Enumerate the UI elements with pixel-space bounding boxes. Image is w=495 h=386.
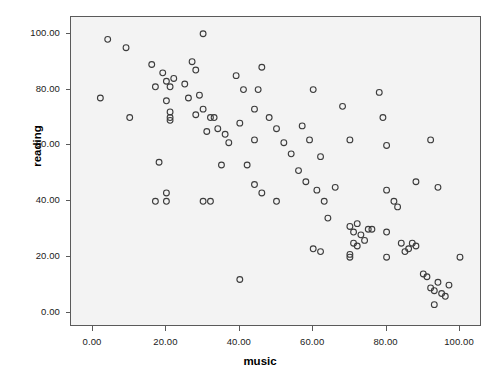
data-point (384, 254, 390, 260)
x-tick-label: 60.00 (282, 337, 342, 347)
data-point (347, 224, 353, 230)
data-point (164, 198, 170, 204)
data-point (299, 123, 305, 129)
y-tick-label: 100.00 (4, 28, 60, 38)
data-point (153, 198, 159, 204)
y-tick-label: 0.00 (4, 307, 60, 317)
data-point (431, 302, 437, 308)
data-point (204, 129, 210, 135)
data-point (446, 282, 452, 288)
y-tick-label: 20.00 (4, 251, 60, 261)
data-point (318, 154, 324, 160)
y-tick-mark (66, 144, 70, 145)
y-tick-mark (66, 33, 70, 34)
x-tick-label: 100.00 (429, 337, 489, 347)
data-point (296, 168, 302, 174)
data-point (435, 184, 441, 190)
data-point (105, 36, 111, 42)
y-tick-label: 80.00 (4, 84, 60, 94)
data-point (310, 246, 316, 252)
data-point (380, 115, 386, 121)
data-point (303, 179, 309, 185)
data-point (215, 126, 221, 132)
data-point (362, 238, 368, 244)
x-tick-label: 0.00 (62, 337, 122, 347)
data-point (391, 198, 397, 204)
data-point (413, 179, 419, 185)
data-point (244, 162, 250, 168)
data-point (428, 137, 434, 143)
data-point (208, 198, 214, 204)
data-point (149, 62, 155, 68)
data-point (200, 198, 206, 204)
data-point (200, 106, 206, 112)
data-point (164, 98, 170, 104)
data-point (332, 184, 338, 190)
data-point (193, 67, 199, 73)
data-point (237, 120, 243, 126)
data-point (211, 115, 217, 121)
data-point (222, 131, 228, 137)
data-point (200, 31, 206, 37)
data-point (167, 109, 173, 115)
x-tick-label: 40.00 (209, 337, 269, 347)
data-point (259, 190, 265, 196)
data-point (233, 73, 239, 79)
data-point (347, 137, 353, 143)
x-tick-mark (312, 326, 313, 331)
data-point (160, 70, 166, 76)
data-point (358, 232, 364, 238)
data-point (307, 137, 313, 143)
data-point (435, 279, 441, 285)
data-point (164, 78, 170, 84)
data-point (314, 187, 320, 193)
data-point (226, 140, 232, 146)
y-tick-label: 40.00 (4, 195, 60, 205)
data-point (266, 115, 272, 121)
data-point (153, 84, 159, 90)
x-tick-mark (239, 326, 240, 331)
data-point (354, 221, 360, 227)
data-point (384, 229, 390, 235)
data-point (189, 59, 195, 65)
y-axis-label: reading (31, 101, 43, 191)
data-point (457, 254, 463, 260)
data-point (384, 187, 390, 193)
data-point (182, 81, 188, 87)
data-point (127, 115, 133, 121)
data-point (384, 143, 390, 149)
data-point (219, 162, 225, 168)
data-point (255, 87, 261, 93)
data-point (321, 198, 327, 204)
x-tick-mark (92, 326, 93, 331)
data-points-layer (71, 17, 480, 325)
data-point (156, 159, 162, 165)
data-point (395, 204, 401, 210)
data-point (193, 112, 199, 118)
data-point (164, 190, 170, 196)
data-point (97, 95, 103, 101)
data-point (369, 226, 375, 232)
data-point (167, 84, 173, 90)
y-tick-mark (66, 89, 70, 90)
data-point (376, 90, 382, 96)
data-point (281, 140, 287, 146)
y-tick-mark (66, 200, 70, 201)
data-point (325, 215, 331, 221)
data-point (259, 64, 265, 70)
plot-area (70, 16, 481, 326)
data-point (288, 151, 294, 157)
data-point (340, 103, 346, 109)
x-axis-label: music (190, 355, 330, 367)
data-point (318, 249, 324, 255)
data-point (351, 229, 357, 235)
x-tick-label: 80.00 (356, 337, 416, 347)
x-tick-mark (165, 326, 166, 331)
scatter-plot-chart: 0.0020.0040.0060.0080.00100.00 0.0020.00… (0, 0, 495, 386)
y-tick-mark (66, 312, 70, 313)
data-point (252, 106, 258, 112)
data-point (237, 277, 243, 283)
data-point (252, 182, 258, 188)
data-point (398, 240, 404, 246)
data-point (274, 198, 280, 204)
